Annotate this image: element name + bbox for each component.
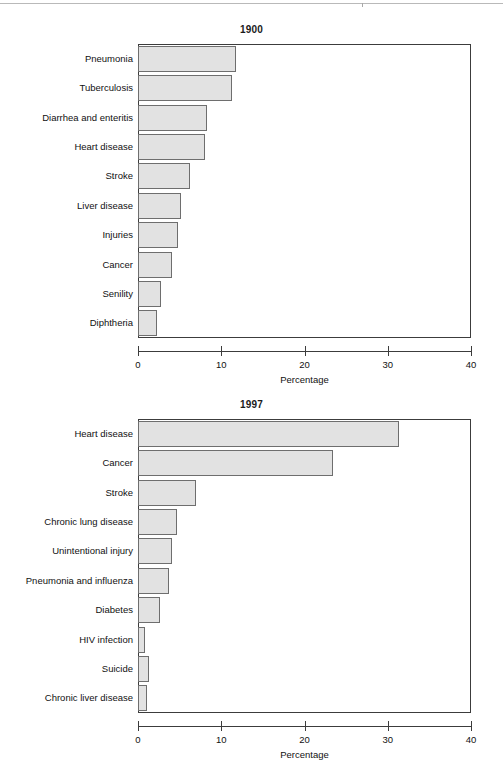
bar [138,281,161,307]
x-tick [388,726,389,731]
category-label: Diarrhea and enteritis [3,112,133,123]
bar [138,656,149,682]
category-label: Tuberculosis [3,82,133,93]
x-tick-inner [388,346,389,351]
chart-panel-1997: 1997 Heart diseaseCancerStrokeChronic lu… [0,385,503,755]
bar-row [138,310,471,336]
bar [138,46,236,72]
x-tick-inner [305,346,306,351]
bars-1997 [138,419,471,713]
bar [138,538,172,564]
x-tick-label: 0 [123,359,153,370]
category-label: Liver disease [3,200,133,211]
bar-row [138,46,471,72]
bars-1900 [138,44,471,338]
bar [138,509,177,535]
category-label: Heart disease [3,141,133,152]
x-tick-label: 30 [373,734,403,745]
x-tick-label: 30 [373,359,403,370]
category-label: Injuries [3,229,133,240]
x-tick [471,726,472,731]
page-top-rule [0,3,503,4]
bar [138,75,232,101]
category-label: Stroke [3,487,133,498]
bar-row [138,509,471,535]
x-tick-inner [221,346,222,351]
chart-title-1997: 1997 [0,399,503,410]
bar-row [138,685,471,711]
x-tick-inner [305,721,306,726]
bar-row [138,134,471,160]
x-tick [138,351,139,356]
x-axis-label-1997: Percentage [138,749,471,760]
chart-title-1900: 1900 [0,24,503,35]
category-label: Chronic liver disease [3,692,133,703]
category-label: Diabetes [3,604,133,615]
bar-row [138,105,471,131]
page-top-rule-tick [362,3,363,7]
bar-row [138,538,471,564]
category-label: Suicide [3,663,133,674]
x-tick-label: 40 [456,359,486,370]
x-tick-inner [138,721,139,726]
x-tick-inner [138,346,139,351]
category-label: Senility [3,288,133,299]
x-tick [221,726,222,731]
bar-row [138,193,471,219]
bar [138,421,399,447]
x-tick-label: 20 [290,734,320,745]
x-tick [138,726,139,731]
x-tick-inner [221,721,222,726]
x-tick-inner [471,721,472,726]
bar [138,627,145,653]
category-label: Pneumonia [3,53,133,64]
category-label: Diphtheria [3,317,133,328]
bar-row [138,222,471,248]
bar [138,480,196,506]
bar [138,222,178,248]
category-label: Pneumonia and influenza [3,575,133,586]
x-tick-label: 20 [290,359,320,370]
bar-row [138,597,471,623]
bar-row [138,656,471,682]
bar-row [138,75,471,101]
bar [138,105,207,131]
x-tick-label: 10 [206,359,236,370]
bar-row [138,421,471,447]
bar-row [138,480,471,506]
bar-row [138,627,471,653]
bar-row [138,252,471,278]
bar [138,568,169,594]
bar [138,685,147,711]
bar [138,597,160,623]
bar-row [138,568,471,594]
bar [138,163,190,189]
x-tick-label: 0 [123,734,153,745]
bar-row [138,163,471,189]
x-tick-inner [388,721,389,726]
bar [138,252,172,278]
bar-row [138,450,471,476]
bar-row [138,281,471,307]
category-label: Heart disease [3,428,133,439]
category-labels-1997: Heart diseaseCancerStrokeChronic lung di… [0,419,133,713]
x-tick-label: 40 [456,734,486,745]
x-tick [221,351,222,356]
category-label: Chronic lung disease [3,516,133,527]
category-label: Unintentional injury [3,545,133,556]
category-label: Cancer [3,259,133,270]
bar [138,193,181,219]
bar [138,310,157,336]
bar [138,134,205,160]
category-label: HIV infection [3,634,133,645]
bar [138,450,333,476]
category-labels-1900: PneumoniaTuberculosisDiarrhea and enteri… [0,44,133,338]
x-tick [305,726,306,731]
chart-panel-1900: 1900 PneumoniaTuberculosisDiarrhea and e… [0,10,503,380]
category-label: Cancer [3,457,133,468]
category-label: Stroke [3,170,133,181]
x-tick [305,351,306,356]
x-axis-label-1900: Percentage [138,374,471,385]
x-tick [471,351,472,356]
x-tick-label: 10 [206,734,236,745]
